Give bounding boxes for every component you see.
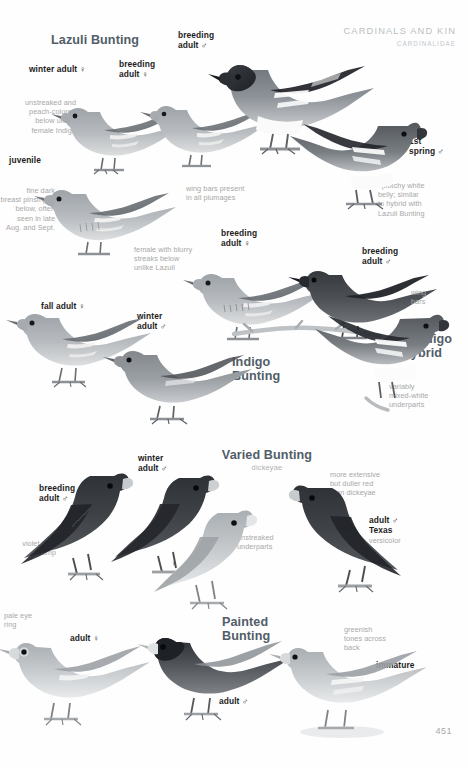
bird-lazuli-x-indigo-hybrid (322, 300, 446, 416)
bird-varied-adult-female (146, 503, 286, 613)
bird-painted-immature (280, 632, 432, 752)
label-lazuli-breeding-adult-female: breeding adult ♀ (119, 59, 189, 80)
species-heading-varied-bunting: Varied Bunting (197, 448, 337, 462)
page-folio: 451 (435, 726, 452, 736)
page-header-title: CARDINALS AND KIN (256, 26, 456, 36)
bird-lazuli-first-spring-male (296, 110, 420, 220)
bird-indigo-winter-adult-male (110, 330, 250, 426)
label-lazuli-winter-adult-female: winter adult ♀ (29, 64, 129, 74)
field-guide-page: CARDINALS AND KIN CARDINALIDAE Lazuli Bu… (0, 0, 468, 768)
bird-painted-adult-female (10, 625, 156, 741)
bird-painted-adult-male (148, 620, 296, 736)
bird-varied-adult-male-texas (278, 472, 430, 598)
note-lazuli-wing-bars-all-plumages: wing bars present in all plumages (186, 184, 296, 202)
